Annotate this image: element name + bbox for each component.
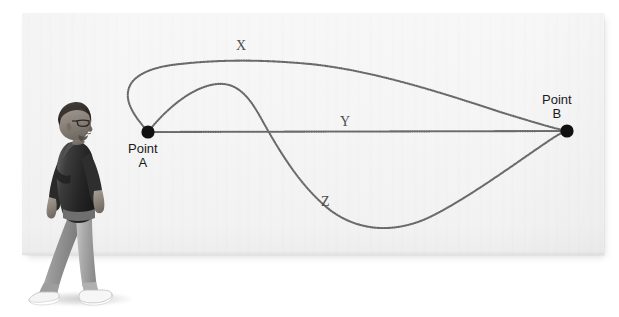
label-point-b-line2: B: [542, 107, 572, 121]
label-path-z: Z: [321, 194, 330, 209]
label-point-a: Point A: [128, 142, 158, 170]
person-head: [58, 102, 92, 141]
walking-person: [24, 97, 128, 307]
label-point-a-line2: A: [128, 156, 158, 170]
label-point-b-line1: Point: [542, 93, 572, 107]
label-point-b: Point B: [542, 93, 572, 121]
label-point-a-line1: Point: [128, 142, 158, 156]
person-back-leg: [29, 217, 81, 305]
label-path-x: X: [236, 38, 246, 53]
label-path-y: Y: [340, 114, 350, 129]
person-front-leg: [76, 215, 112, 305]
screenshot-root: Point A Point B X Y Z: [0, 0, 619, 317]
